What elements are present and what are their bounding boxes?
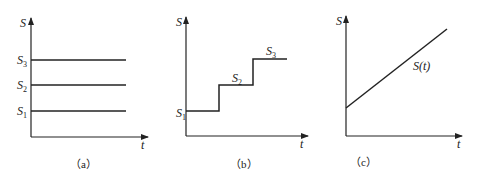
panel-a: S t S3 S2 S1 （a）	[17, 16, 148, 170]
x-axis-label: t	[141, 138, 145, 152]
linear-curve	[346, 29, 447, 108]
x-axis-label: t	[300, 137, 304, 151]
y-axis-label: S	[336, 14, 342, 28]
diagram-canvas: S t S3 S2 S1 （a） S t S1 S2 S3 （b） S t S(…	[0, 0, 478, 182]
curve-label: S(t)	[413, 59, 430, 73]
y-axis-label: S	[20, 16, 26, 30]
x-axis-label: t	[457, 137, 461, 151]
level-label-s2: S2	[17, 78, 27, 94]
step-label-s3: S3	[266, 44, 276, 60]
caption-a: （a）	[70, 158, 97, 170]
y-axis-label: S	[176, 15, 182, 29]
step-label-s2: S2	[232, 71, 242, 87]
level-label-s3: S3	[17, 53, 27, 69]
caption-c: （c）	[350, 156, 377, 168]
step-label-s1: S1	[176, 106, 186, 122]
caption-b: （b）	[230, 158, 258, 170]
step-function-line	[186, 59, 287, 111]
panel-b: S t S1 S2 S3 （b）	[176, 15, 308, 170]
level-label-s1: S1	[17, 104, 27, 120]
panel-c: S t S(t) （c）	[336, 14, 462, 168]
